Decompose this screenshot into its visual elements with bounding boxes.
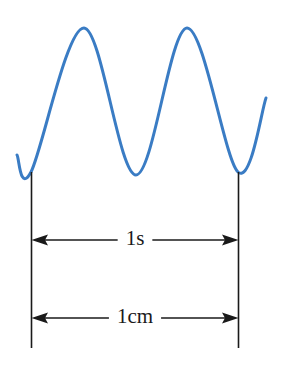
time-dimension-label: 1s	[126, 226, 145, 250]
waveform-diagram: 1s 1cm	[0, 0, 283, 369]
length-dimension-label: 1cm	[117, 304, 153, 328]
figure-container: 1s 1cm	[0, 0, 283, 369]
